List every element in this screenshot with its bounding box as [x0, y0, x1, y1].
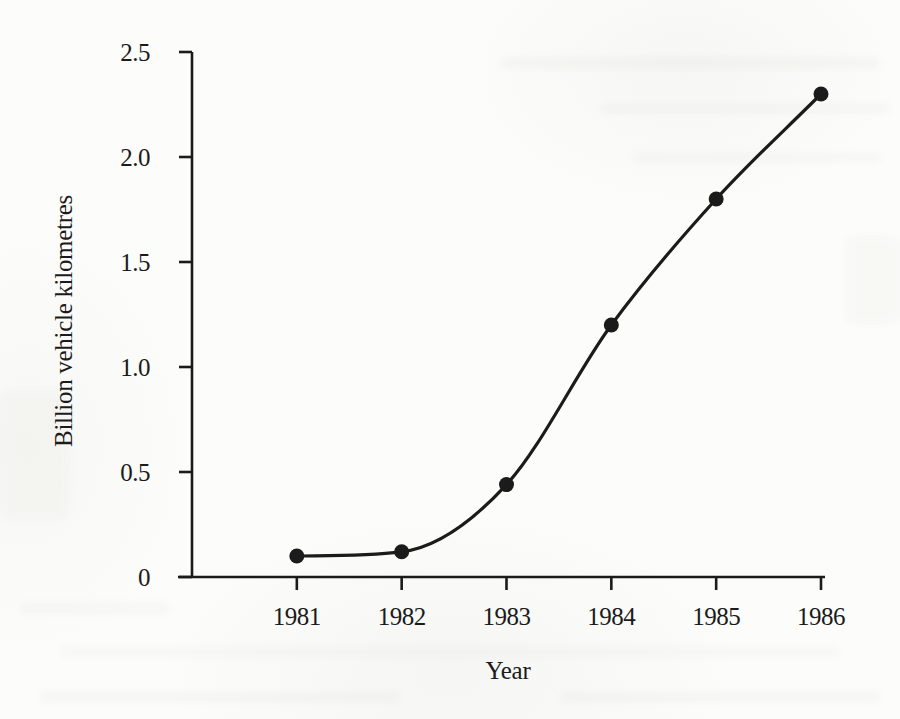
- x-tick-label: 1985: [692, 603, 740, 630]
- chart-canvas: 00.51.01.52.02.5198119821983198419851986: [0, 0, 900, 719]
- y-tick-label: 0.5: [120, 459, 150, 486]
- data-point: [499, 477, 514, 492]
- x-tick-label: 1984: [587, 603, 636, 630]
- y-axis-title: Billion vehicle kilometres: [50, 195, 78, 447]
- x-tick-label: 1982: [378, 603, 426, 630]
- data-line: [297, 94, 821, 556]
- x-tick-label: 1983: [483, 603, 531, 630]
- y-tick-label: 0: [138, 564, 150, 591]
- data-point: [394, 544, 409, 559]
- y-tick-label: 1.5: [120, 249, 150, 276]
- axes: [178, 52, 825, 577]
- x-tick-label: 1981: [273, 603, 321, 630]
- x-axis-title: Year: [486, 657, 531, 685]
- x-tick-label: 1986: [797, 603, 845, 630]
- data-point: [289, 549, 304, 564]
- y-tick-label: 2.0: [120, 144, 150, 171]
- data-point: [604, 318, 619, 333]
- y-tick-label: 1.0: [120, 354, 150, 381]
- data-point: [709, 192, 724, 207]
- y-tick-label: 2.5: [120, 39, 150, 66]
- scanned-document-page: 00.51.01.52.02.5198119821983198419851986…: [0, 0, 900, 719]
- data-point: [814, 87, 829, 102]
